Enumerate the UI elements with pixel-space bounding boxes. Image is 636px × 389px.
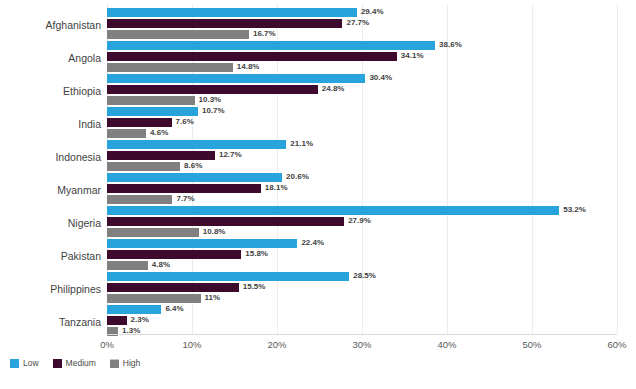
bar-value-label: 16.7%	[253, 29, 276, 39]
bar-value-label: 28.5%	[353, 271, 376, 281]
bar-row: 14.8%	[107, 63, 617, 72]
bar-value-label: 29.4%	[361, 7, 384, 17]
bar-row: 4.6%	[107, 129, 617, 138]
legend-swatch-low	[10, 359, 19, 368]
bar-medium	[107, 217, 344, 226]
bar-row: 21.1%	[107, 140, 617, 149]
bar-value-label: 10.3%	[199, 95, 222, 105]
bar-value-label: 53.2%	[563, 205, 586, 215]
x-tick-20: 20%	[267, 339, 286, 350]
x-tick-50: 50%	[522, 339, 541, 350]
bar-row: 6.4%	[107, 305, 617, 314]
bar-group: 21.1%12.7%8.6%	[107, 140, 617, 173]
bar-chart: 29.4%27.7%16.7%38.6%34.1%14.8%30.4%24.8%…	[0, 0, 636, 389]
bar-row: 29.4%	[107, 8, 617, 17]
bar-value-label: 21.1%	[290, 139, 313, 149]
bar-row: 20.6%	[107, 173, 617, 182]
bar-row: 10.8%	[107, 228, 617, 237]
bar-low	[107, 74, 365, 83]
bar-value-label: 7.6%	[176, 117, 194, 127]
bar-row: 7.7%	[107, 195, 617, 204]
bar-low	[107, 239, 297, 248]
bar-row: 4.8%	[107, 261, 617, 270]
x-tick-0: 0%	[100, 339, 114, 350]
category-label-pakistan: Pakistan	[0, 250, 101, 262]
bar-value-label: 10.7%	[202, 106, 225, 116]
legend-label: Medium	[66, 358, 96, 368]
bar-high	[107, 162, 180, 171]
plot-area: 29.4%27.7%16.7%38.6%34.1%14.8%30.4%24.8%…	[107, 4, 617, 334]
bar-low	[107, 206, 559, 215]
bar-row: 15.5%	[107, 283, 617, 292]
bar-row: 30.4%	[107, 74, 617, 83]
bar-value-label: 24.8%	[322, 84, 345, 94]
bar-low	[107, 41, 435, 50]
legend-swatch-medium	[53, 359, 62, 368]
category-label-nigeria: Nigeria	[0, 217, 101, 229]
x-axis-line	[107, 334, 617, 335]
bar-value-label: 10.8%	[203, 227, 226, 237]
bar-medium	[107, 184, 261, 193]
bar-row: 2.3%	[107, 316, 617, 325]
legend-item-low[interactable]: Low	[10, 358, 39, 368]
bar-medium	[107, 85, 318, 94]
x-tick-40: 40%	[437, 339, 456, 350]
bar-high	[107, 294, 201, 303]
bar-value-label: 4.6%	[150, 128, 168, 138]
bar-group: 38.6%34.1%14.8%	[107, 41, 617, 74]
legend-label: Low	[23, 358, 39, 368]
bar-row: 53.2%	[107, 206, 617, 215]
bar-row: 11%	[107, 294, 617, 303]
gridline-60	[617, 4, 618, 334]
legend-item-high[interactable]: High	[110, 358, 140, 368]
bar-row: 16.7%	[107, 30, 617, 39]
bar-value-label: 11%	[205, 293, 221, 303]
bar-medium	[107, 283, 239, 292]
bar-value-label: 22.4%	[301, 238, 324, 248]
bar-low	[107, 272, 349, 281]
bar-medium	[107, 52, 397, 61]
bar-value-label: 2.3%	[131, 315, 149, 325]
category-label-angola: Angola	[0, 52, 101, 64]
bar-group: 22.4%15.8%4.8%	[107, 239, 617, 272]
bar-row: 12.7%	[107, 151, 617, 160]
bar-value-label: 4.8%	[152, 260, 170, 270]
bar-high	[107, 30, 249, 39]
bar-group: 28.5%15.5%11%	[107, 272, 617, 305]
bar-low	[107, 173, 282, 182]
bar-medium	[107, 19, 342, 28]
category-label-indonesia: Indonesia	[0, 151, 101, 163]
bar-row: 27.7%	[107, 19, 617, 28]
bar-high	[107, 129, 146, 138]
x-tick-30: 30%	[352, 339, 371, 350]
bar-high	[107, 228, 199, 237]
bar-value-label: 6.4%	[165, 304, 183, 314]
bar-row: 15.8%	[107, 250, 617, 259]
bar-group: 29.4%27.7%16.7%	[107, 8, 617, 41]
bar-row: 7.6%	[107, 118, 617, 127]
category-label-afghanistan: Afghanistan	[0, 19, 101, 31]
bar-high	[107, 261, 148, 270]
bar-row: 28.5%	[107, 272, 617, 281]
category-label-philippines: Philippines	[0, 283, 101, 295]
bar-group: 20.6%18.1%7.7%	[107, 173, 617, 206]
bar-value-label: 18.1%	[265, 183, 288, 193]
bar-low	[107, 8, 357, 17]
bar-row: 24.8%	[107, 85, 617, 94]
bar-value-label: 27.9%	[348, 216, 371, 226]
bar-value-label: 15.8%	[245, 249, 268, 259]
bar-row: 38.6%	[107, 41, 617, 50]
bar-low	[107, 107, 198, 116]
bar-high	[107, 195, 172, 204]
bar-group: 10.7%7.6%4.6%	[107, 107, 617, 140]
bar-row: 10.3%	[107, 96, 617, 105]
bar-value-label: 34.1%	[401, 51, 424, 61]
bar-medium	[107, 118, 172, 127]
legend-item-medium[interactable]: Medium	[53, 358, 96, 368]
bar-value-label: 38.6%	[439, 40, 462, 50]
bar-high	[107, 63, 233, 72]
bar-row: 10.7%	[107, 107, 617, 116]
bar-row: 34.1%	[107, 52, 617, 61]
bar-medium	[107, 316, 127, 325]
bar-row: 18.1%	[107, 184, 617, 193]
